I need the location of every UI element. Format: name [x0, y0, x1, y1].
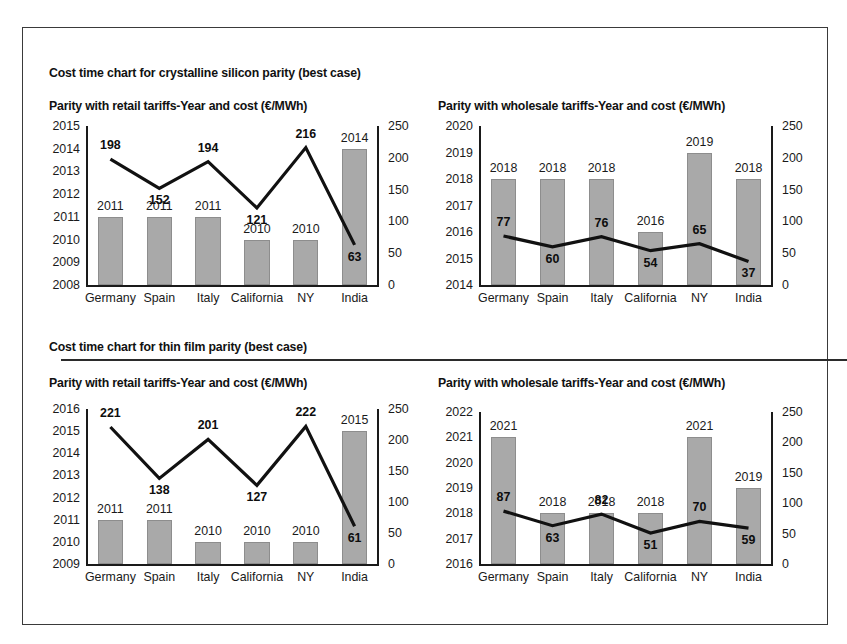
- left-tick-1-3: 2017: [429, 200, 473, 212]
- right-tick-3-5: 0: [782, 558, 822, 570]
- left-tick-0-4: 2011: [36, 211, 80, 223]
- category-label-2-5: India: [322, 571, 387, 583]
- right-tick-2-5: 0: [388, 558, 428, 570]
- chart-title-3: Parity with wholesale tariffs-Year and c…: [438, 376, 725, 390]
- left-tick-1-6: 2014: [429, 279, 473, 291]
- cost-line-3: [504, 511, 749, 533]
- left-tick-0-0: 2015: [36, 120, 80, 132]
- left-tick-1-4: 2016: [429, 226, 473, 238]
- right-tick-3-0: 250: [782, 406, 822, 418]
- right-tick-2-2: 150: [388, 465, 428, 477]
- right-tick-3-4: 50: [782, 528, 822, 540]
- line-value-label-0-1: 152: [135, 194, 184, 206]
- left-tick-3-1: 2021: [429, 431, 473, 443]
- line-value-label-2-2: 201: [184, 419, 233, 431]
- line-value-label-0-4: 216: [281, 128, 330, 140]
- right-tick-0-5: 0: [388, 279, 428, 291]
- right-tick-0-1: 200: [388, 152, 428, 164]
- category-label-3-5: India: [716, 571, 781, 583]
- left-tick-0-5: 2010: [36, 234, 80, 246]
- line-value-label-1-4: 65: [675, 224, 724, 236]
- right-tick-2-1: 200: [388, 434, 428, 446]
- x-axis-line-1: [479, 285, 773, 287]
- line-value-label-3-4: 70: [675, 501, 724, 513]
- line-value-label-3-5: 59: [724, 534, 773, 546]
- right-tick-2-0: 250: [388, 403, 428, 415]
- left-tick-2-3: 2013: [36, 469, 80, 481]
- right-tick-3-3: 100: [782, 497, 822, 509]
- left-tick-0-7: 2008: [36, 279, 80, 291]
- section-title-thin-film: Cost time chart for thin film parity (be…: [49, 340, 307, 354]
- chart-wholesale-thinfilm: 2022202120202019201820172016250200150100…: [479, 412, 773, 594]
- x-axis-line-2: [86, 564, 379, 566]
- right-tick-3-2: 150: [782, 467, 822, 479]
- line-value-label-3-3: 51: [626, 539, 675, 551]
- right-tick-1-3: 100: [782, 215, 822, 227]
- right-tick-1-0: 250: [782, 120, 822, 132]
- left-tick-3-4: 2018: [429, 507, 473, 519]
- line-value-label-2-0: 221: [86, 407, 135, 419]
- line-value-label-1-2: 76: [577, 217, 626, 229]
- figure-frame: Cost time chart for crystalline silicon …: [22, 27, 828, 625]
- right-tick-1-1: 200: [782, 152, 822, 164]
- left-tick-3-5: 2017: [429, 533, 473, 545]
- left-tick-2-7: 2009: [36, 558, 80, 570]
- right-tick-0-2: 150: [388, 184, 428, 196]
- right-tick-1-4: 50: [782, 247, 822, 259]
- x-axis-line-0: [86, 285, 379, 287]
- line-value-label-0-2: 194: [184, 142, 233, 154]
- chart-title-0: Parity with retail tariffs-Year and cost…: [49, 99, 307, 113]
- left-tick-2-5: 2011: [36, 514, 80, 526]
- chart-retail-thinfilm: 2016201520142013201220112010200925020015…: [86, 409, 379, 594]
- line-value-label-3-2: 82: [577, 494, 626, 506]
- left-tick-3-2: 2020: [429, 457, 473, 469]
- category-label-1-5: India: [716, 292, 781, 304]
- left-tick-2-6: 2010: [36, 536, 80, 548]
- line-value-label-2-1: 138: [135, 484, 184, 496]
- line-value-label-2-4: 222: [281, 406, 330, 418]
- line-value-label-2-3: 127: [233, 491, 282, 503]
- left-tick-1-2: 2018: [429, 173, 473, 185]
- section-divider: [61, 359, 847, 361]
- right-tick-3-1: 200: [782, 436, 822, 448]
- line-value-label-0-5: 63: [330, 251, 379, 263]
- left-tick-2-0: 2016: [36, 403, 80, 415]
- right-tick-2-4: 50: [388, 527, 428, 539]
- line-value-label-1-0: 77: [479, 216, 528, 228]
- left-tick-2-1: 2015: [36, 425, 80, 437]
- line-value-label-1-3: 54: [626, 257, 675, 269]
- line-value-label-0-0: 198: [86, 139, 135, 151]
- right-tick-0-3: 100: [388, 215, 428, 227]
- chart-title-2: Parity with retail tariffs-Year and cost…: [49, 376, 307, 390]
- figure-page: Cost time chart for crystalline silicon …: [0, 0, 847, 644]
- line-value-label-2-5: 61: [330, 532, 379, 544]
- left-tick-0-2: 2013: [36, 165, 80, 177]
- left-tick-0-1: 2014: [36, 143, 80, 155]
- left-tick-3-6: 2016: [429, 558, 473, 570]
- chart-retail-crystalline: 2015201420132012201120102009200825020015…: [86, 126, 379, 315]
- left-tick-0-3: 2012: [36, 188, 80, 200]
- left-tick-3-3: 2019: [429, 482, 473, 494]
- chart-title-1: Parity with wholesale tariffs-Year and c…: [438, 99, 725, 113]
- left-tick-2-4: 2012: [36, 492, 80, 504]
- line-value-label-1-5: 37: [724, 267, 773, 279]
- left-tick-1-5: 2015: [429, 253, 473, 265]
- left-tick-1-1: 2019: [429, 147, 473, 159]
- category-label-0-5: India: [322, 292, 387, 304]
- section-title-crystalline-silicon: Cost time chart for crystalline silicon …: [49, 66, 361, 80]
- left-tick-0-6: 2009: [36, 256, 80, 268]
- line-value-label-1-1: 60: [528, 253, 577, 265]
- cost-line-2: [110, 426, 354, 526]
- right-tick-1-2: 150: [782, 184, 822, 196]
- right-tick-0-4: 50: [388, 247, 428, 259]
- left-tick-3-0: 2022: [429, 406, 473, 418]
- right-tick-1-5: 0: [782, 279, 822, 291]
- left-tick-1-0: 2020: [429, 120, 473, 132]
- right-tick-0-0: 250: [388, 120, 428, 132]
- line-value-label-3-0: 87: [479, 491, 528, 503]
- right-tick-2-3: 100: [388, 496, 428, 508]
- line-value-label-3-1: 63: [528, 532, 577, 544]
- chart-wholesale-crystalline: 2020201920182017201620152014250200150100…: [479, 126, 773, 315]
- x-axis-line-3: [479, 564, 773, 566]
- left-tick-2-2: 2014: [36, 447, 80, 459]
